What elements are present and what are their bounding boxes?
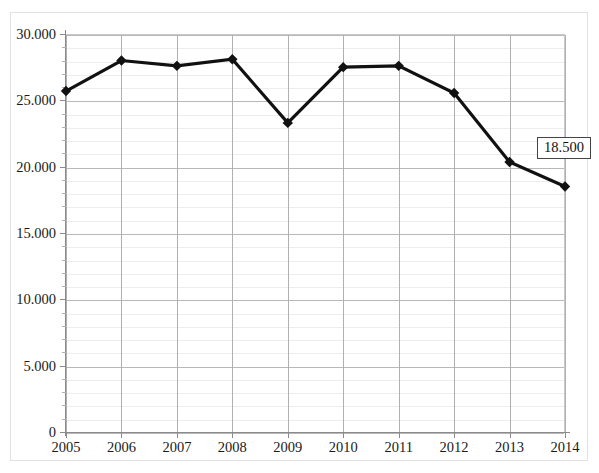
series-line [66, 59, 565, 186]
data-point-marker [393, 61, 403, 71]
data-series-layer [0, 0, 599, 473]
series-markers [61, 54, 570, 192]
data-point-marker [560, 181, 570, 191]
data-point-value-label: 18.500 [537, 137, 591, 159]
data-point-marker [172, 61, 182, 71]
line-chart: 30.00025.00020.00015.00010.0005.0000 200… [0, 0, 599, 473]
